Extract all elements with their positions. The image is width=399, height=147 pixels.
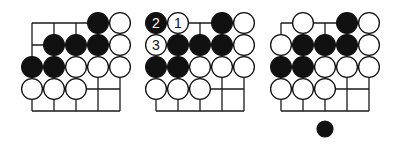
- white-stone: [22, 79, 43, 100]
- diagram-2: 213: [146, 13, 255, 111]
- diagram-1: [22, 13, 131, 111]
- white-stone: [66, 79, 87, 100]
- black-stone: [337, 13, 358, 34]
- white-stone: [293, 13, 314, 34]
- black-stone: [337, 35, 358, 56]
- black-stone: [88, 35, 109, 56]
- black-stone: [212, 13, 233, 34]
- white-stone: [359, 13, 380, 34]
- white-stone: [110, 57, 131, 78]
- black-stone: [315, 35, 336, 56]
- white-stone: [337, 57, 358, 78]
- go-diagrams: 213: [0, 0, 399, 147]
- white-stone: [315, 79, 336, 100]
- white-stone: [88, 57, 109, 78]
- black-stone: [66, 35, 87, 56]
- white-stone: [293, 79, 314, 100]
- white-stone: [110, 35, 131, 56]
- white-stone: 1: [168, 13, 189, 34]
- extra-black-stone: [317, 121, 333, 137]
- white-stone: [234, 13, 255, 34]
- white-stone: [271, 79, 292, 100]
- black-stone: [88, 13, 109, 34]
- black-stone: [44, 35, 65, 56]
- white-stone: [315, 57, 336, 78]
- move-number: 1: [174, 15, 182, 31]
- white-stone: [359, 35, 380, 56]
- white-stone: [168, 79, 189, 100]
- white-stone: 3: [146, 35, 167, 56]
- black-stone: [293, 35, 314, 56]
- diagram-3: [271, 13, 380, 137]
- white-stone: [359, 57, 380, 78]
- white-stone: [212, 57, 233, 78]
- black-stone: [190, 35, 211, 56]
- black-stone: [293, 57, 314, 78]
- black-stone: [44, 57, 65, 78]
- white-stone: [234, 57, 255, 78]
- black-stone: [212, 35, 233, 56]
- black-stone: 2: [146, 13, 167, 34]
- black-stone: [168, 57, 189, 78]
- black-stone: [168, 35, 189, 56]
- move-number: 2: [152, 15, 160, 31]
- white-stone: [190, 79, 211, 100]
- white-stone: [234, 35, 255, 56]
- black-stone: [271, 57, 292, 78]
- white-stone: [146, 79, 167, 100]
- white-stone: [66, 57, 87, 78]
- white-stone: [110, 13, 131, 34]
- white-stone: [190, 57, 211, 78]
- white-stone: [271, 35, 292, 56]
- black-stone: [146, 57, 167, 78]
- black-stone: [22, 57, 43, 78]
- white-stone: [44, 79, 65, 100]
- move-number: 3: [152, 37, 160, 53]
